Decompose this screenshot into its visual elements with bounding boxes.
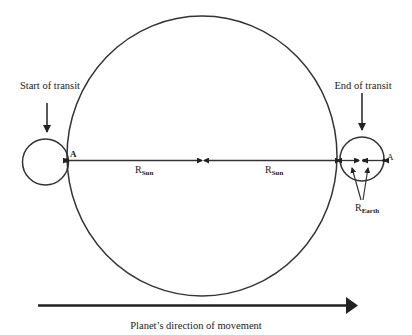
direction-arrow-head [346,297,358,314]
r-earth-pointer-left [352,168,361,200]
dot-2 [355,159,359,163]
r-earth-label: REarth [355,202,379,215]
sun-circle [67,16,337,296]
start-label: Start of transit [20,80,80,91]
dot-3 [362,159,366,163]
r-sun-right-label: RSun [265,164,283,177]
r-sun-left-subscript: Sun [142,169,154,177]
planet-end-circle [340,137,384,181]
planet-start-circle [23,139,69,185]
dot-4 [382,159,386,163]
point-a-left-label: A [70,149,77,159]
r-sun-right-subscript: Sun [272,169,284,177]
transit-diagram: Start of transit End of transit A A RSun… [0,0,412,335]
r-earth-pointer-right [363,168,368,200]
dot-1 [338,159,342,163]
r-sun-left-label: RSun [135,164,153,177]
end-label: End of transit [334,80,391,91]
r-earth-subscript: Earth [362,207,380,215]
point-a-right-label: A [387,152,394,162]
point-a-left-marker [65,159,69,163]
diagram-svg: Start of transit End of transit A A RSun… [0,0,412,335]
direction-label: Planet’s direction of movement [130,320,262,331]
